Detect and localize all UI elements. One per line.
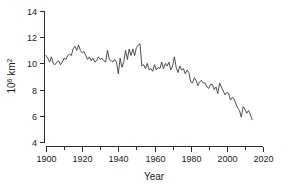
x-axis-title: Year (144, 171, 165, 182)
x-tick-label: 1900 (36, 154, 56, 164)
y-axis-title-mantissa: 10 (6, 82, 17, 94)
y-axis-ticks (40, 12, 45, 143)
x-tick-label: 1960 (145, 154, 165, 164)
x-tick-label: 1920 (72, 154, 92, 164)
x-tick-label: 1980 (181, 154, 201, 164)
data-series-line (46, 44, 252, 120)
x-axis-ticks-major (47, 147, 264, 153)
y-axis-title: 106 km2 (6, 58, 17, 93)
y-tick-label: 10 (27, 59, 37, 69)
y-tick-label: 12 (27, 33, 37, 43)
y-tick-label: 6 (32, 112, 37, 122)
x-tick-label: 2020 (253, 154, 273, 164)
y-tick-label: 14 (27, 7, 37, 17)
y-axis-tick-labels: 468101214 (27, 7, 37, 148)
x-tick-label: 2000 (217, 154, 237, 164)
y-tick-label: 4 (32, 138, 37, 148)
x-tick-label: 1940 (108, 154, 128, 164)
y-axis-title-unit: km (6, 62, 17, 78)
y-tick-label: 8 (32, 86, 37, 96)
chart-figure: 468101214 1900192019401960198020002020 Y… (0, 0, 292, 190)
y-axis-title-unit-exponent: 2 (6, 58, 13, 62)
x-axis-tick-labels: 1900192019401960198020002020 (36, 154, 273, 164)
line-chart: 468101214 1900192019401960198020002020 Y… (0, 0, 292, 190)
